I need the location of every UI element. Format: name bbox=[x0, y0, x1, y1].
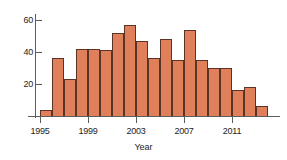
histogram-bar bbox=[184, 30, 196, 116]
x-axis-tick bbox=[40, 117, 41, 123]
x-axis-tick bbox=[136, 117, 137, 123]
histogram-bar bbox=[256, 106, 268, 116]
y-axis-line bbox=[35, 14, 36, 118]
histogram-bar bbox=[136, 41, 148, 116]
histogram-bar bbox=[100, 50, 112, 116]
histogram-bar bbox=[232, 90, 244, 116]
histogram-bar bbox=[40, 110, 52, 116]
x-axis-tick-label: 1995 bbox=[20, 126, 60, 136]
y-axis-tick-label: 60 bbox=[0, 16, 33, 25]
histogram-bar bbox=[112, 33, 124, 116]
histogram-bar bbox=[160, 39, 172, 116]
histogram-bar bbox=[124, 25, 136, 116]
histogram-figure: 204060 19951999200320072011 Year bbox=[0, 0, 287, 160]
histogram-bar bbox=[52, 58, 64, 116]
histogram-bar bbox=[208, 68, 220, 116]
y-axis-tick-label-text: 60 bbox=[3, 16, 33, 25]
histogram-bar bbox=[88, 49, 100, 116]
histogram-bar bbox=[64, 79, 76, 116]
x-axis-line bbox=[28, 116, 280, 117]
plot-area bbox=[40, 12, 285, 116]
x-axis-tick bbox=[232, 117, 233, 123]
x-axis-tick-label: 2007 bbox=[164, 126, 204, 136]
x-axis-tick-label: 2011 bbox=[212, 126, 252, 136]
histogram-bar bbox=[244, 87, 256, 116]
y-axis-tick-label: 20 bbox=[0, 80, 33, 89]
histogram-bar bbox=[148, 58, 160, 116]
histogram-bar bbox=[220, 68, 232, 116]
x-axis-tick bbox=[88, 117, 89, 123]
x-axis-tick bbox=[184, 117, 185, 123]
y-axis-tick-label: 40 bbox=[0, 48, 33, 57]
histogram-bar bbox=[76, 49, 88, 116]
x-axis-tick-label: 1999 bbox=[68, 126, 108, 136]
histogram-bar bbox=[172, 60, 184, 116]
x-axis-tick-label: 2003 bbox=[116, 126, 156, 136]
y-axis-tick-label-text: 40 bbox=[3, 48, 33, 57]
x-axis-title: Year bbox=[0, 142, 287, 152]
histogram-bar bbox=[196, 60, 208, 116]
y-axis-tick-label-text: 20 bbox=[3, 80, 33, 89]
